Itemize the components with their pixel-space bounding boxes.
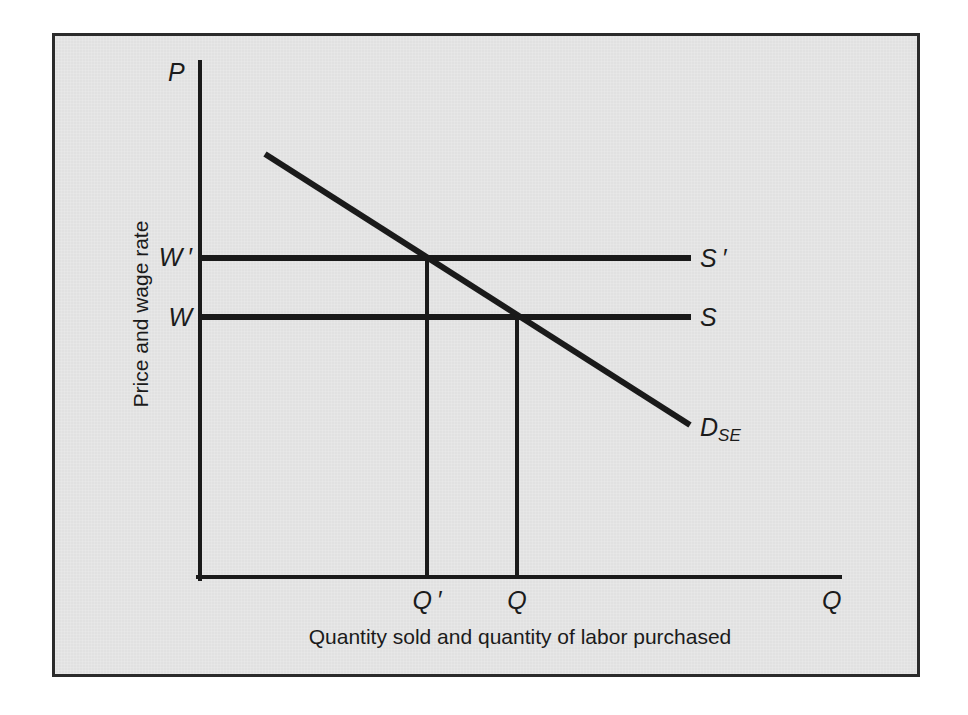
x-tick-label-q-prime: Q ′	[387, 588, 467, 613]
figure-root: P Q W ′ W Q ′ Q S ′ S DSE Price and wage…	[0, 0, 968, 715]
demand-curve	[265, 154, 690, 425]
y-axis-variable-name: P	[168, 60, 185, 85]
y-axis-title: Price and wage rate	[130, 221, 151, 408]
demand-label-main: D	[700, 413, 718, 441]
x-axis-title: Quantity sold and quantity of labor purc…	[200, 626, 840, 647]
x-tick-label-q: Q	[477, 588, 557, 613]
demand-label-subscript: SE	[718, 426, 741, 445]
curve-label-supply: S	[700, 305, 717, 330]
x-axis-variable-name: Q	[822, 588, 841, 613]
curve-label-demand: DSE	[700, 415, 741, 440]
curve-label-supply-shifted: S ′	[700, 246, 726, 271]
